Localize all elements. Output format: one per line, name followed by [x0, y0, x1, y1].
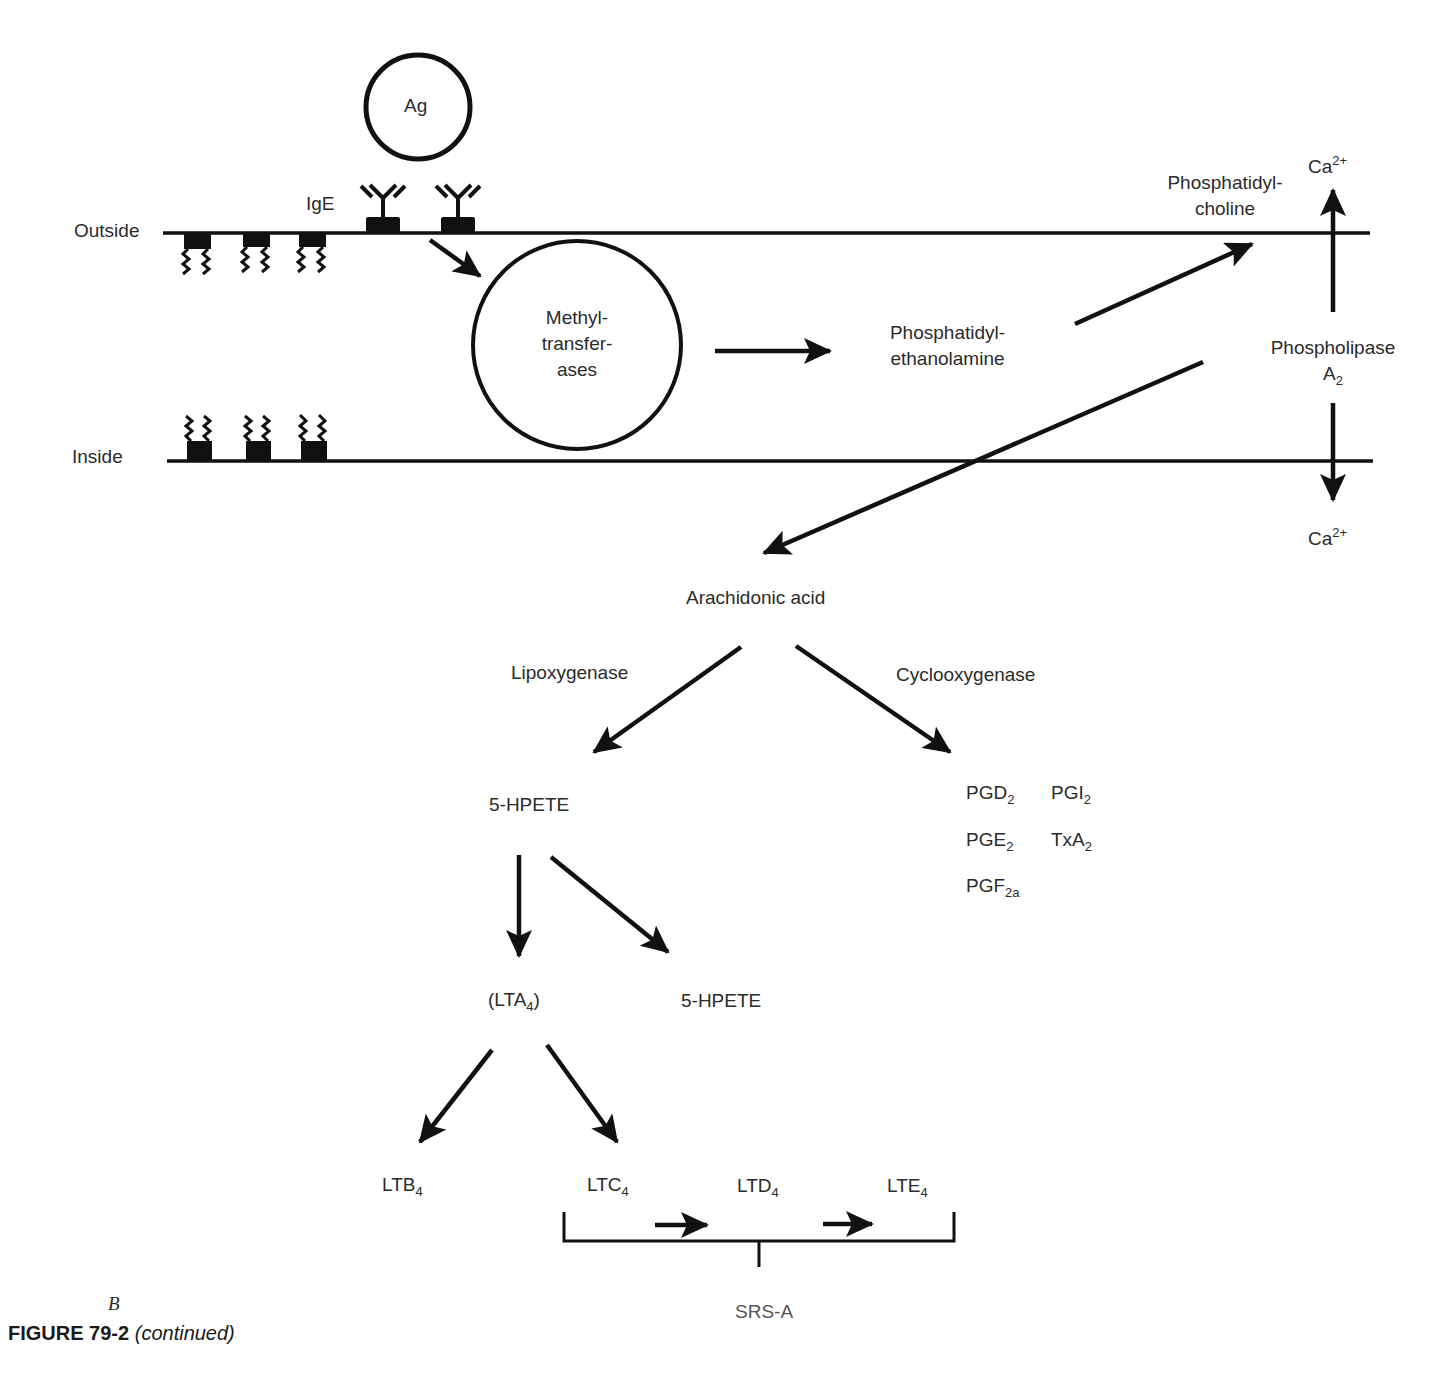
inside-label: Inside [72, 444, 123, 470]
ltd4-label: LTD4 [737, 1173, 779, 1206]
cyclooxygenase-label: Cyclooxygenase [896, 662, 1035, 688]
arrow-lta4-to-ltb4 [420, 1050, 492, 1142]
lta4-label: (LTA4) [488, 987, 540, 1020]
inner-phospholipid-icon [186, 416, 212, 461]
pgf2a-label: PGF2a [966, 873, 1020, 906]
panel-letter: B [108, 1293, 120, 1315]
txa2-label: TxA2 [1051, 827, 1092, 860]
arrow-hpete-to-hpete [551, 857, 668, 952]
outside-label: Outside [74, 218, 139, 244]
arrow-pla2-to-aa [764, 362, 1203, 553]
calcium-top-label: Ca2+ [1308, 148, 1347, 180]
ige-receptor-icon [361, 185, 405, 233]
pgi2-label: PGI2 [1051, 780, 1091, 813]
srs-a-label: SRS-A [735, 1299, 793, 1325]
phosphatidylethanolamine-label: Phosphatidyl- ethanolamine [870, 320, 1025, 372]
arrow-ige-to-methyltransferases [430, 240, 480, 276]
ige-receptor-icon [436, 185, 480, 233]
outer-phospholipid-icon [298, 233, 326, 272]
outer-phospholipid-icon [242, 233, 270, 272]
srs-a-bracket [564, 1212, 954, 1267]
arachidonic-acid-label: Arachidonic acid [686, 585, 825, 611]
hpete-label-2: 5-HPETE [681, 988, 761, 1014]
ltc4-label: LTC4 [587, 1172, 629, 1205]
figure-caption: FIGURE 79-2 (continued) [8, 1322, 235, 1345]
calcium-bottom-label: Ca2+ [1308, 520, 1347, 552]
ige-label: IgE [306, 191, 335, 217]
inner-phospholipid-icon [245, 416, 271, 461]
antigen-label: Ag [404, 93, 427, 119]
arrow-pe-to-pc [1075, 244, 1252, 324]
phosphatidylcholine-label: Phosphatidyl- choline [1150, 170, 1300, 222]
ltb4-label: LTB4 [382, 1172, 423, 1205]
lte4-label: LTE4 [887, 1173, 928, 1206]
methyltransferases-label: Methyl- transfer- ases [517, 305, 637, 383]
pge2-label: PGE2 [966, 827, 1013, 860]
hpete-label: 5-HPETE [489, 792, 569, 818]
pgd2-label: PGD2 [966, 780, 1014, 813]
arrow-lta4-to-ltc4 [547, 1045, 617, 1142]
lipoxygenase-label: Lipoxygenase [511, 660, 628, 686]
inner-phospholipid-icon [300, 415, 327, 461]
outer-phospholipid-icon [183, 233, 211, 274]
phospholipase-a2-label: Phospholipase A2 [1258, 335, 1408, 394]
